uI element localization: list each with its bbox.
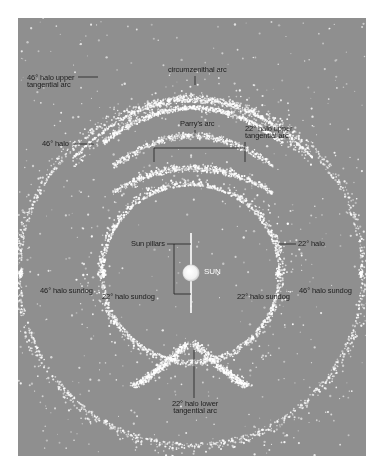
- label-halo46: 46° halo: [42, 140, 69, 148]
- halo-diagram-frame: circumzenithal arc 46° halo upper tangen…: [18, 18, 366, 456]
- label-halo46-upper-tangential-2: tangential arc: [27, 81, 71, 89]
- label-circumzenithal-arc: circumzenithal arc: [168, 66, 227, 74]
- halo22-upper-tangential-bracket: [154, 148, 245, 162]
- label-halo22-upper-tangential-2: tangential arc: [245, 132, 289, 140]
- label-halo46-sundog-left: 46° halo sundog: [40, 287, 93, 295]
- label-sun: SUN: [204, 268, 221, 276]
- label-halo46-sundog-right: 46° halo sundog: [299, 287, 352, 295]
- label-halo22-sundog-left: 22° halo sundog: [102, 293, 155, 301]
- label-parrys-arc: Parry's arc: [180, 120, 215, 128]
- label-halo22: 22° halo: [298, 240, 325, 248]
- label-sun-pillars: Sun pillars: [131, 240, 165, 248]
- sun-pillars-bracket: [167, 244, 191, 294]
- label-halo22-sundog-right: 22° halo sundog: [237, 293, 290, 301]
- label-halo22-lower-tangential-2: tangential arc: [168, 407, 222, 415]
